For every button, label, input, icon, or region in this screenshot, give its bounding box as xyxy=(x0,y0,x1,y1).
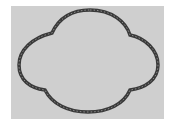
panel-fill xyxy=(11,6,164,119)
quatrefoil-ring xyxy=(0,0,175,129)
